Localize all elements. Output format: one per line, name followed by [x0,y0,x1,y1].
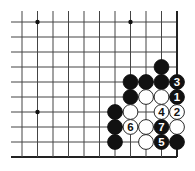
white-stone [139,120,154,135]
white-stone: 4 [154,105,169,120]
star-point [35,110,39,114]
move-number-label: 5 [158,136,165,148]
move-number-label: 4 [158,106,165,118]
stone-circle [108,105,123,120]
black-stone: 3 [170,75,185,90]
black-stone [108,105,123,120]
black-stone [123,90,138,105]
stone-circle [139,75,154,90]
white-stone [154,90,169,105]
stone-circle [123,90,138,105]
black-stone: 5 [154,135,169,150]
move-number-label: 3 [174,76,180,88]
stone-circle [108,135,123,150]
move-number-label: 6 [127,121,133,133]
white-stone [139,135,154,150]
move-number-label: 7 [158,121,164,133]
stone-circle [108,120,123,135]
black-stone [108,120,123,135]
stone-circle [139,90,154,105]
white-stone [139,90,154,105]
stone-circle [154,90,169,105]
black-stone: 7 [154,120,169,135]
stone-circle [170,135,185,150]
star-point [128,20,132,24]
black-stone [108,135,123,150]
white-stone [123,105,138,120]
black-stone [139,75,154,90]
go-board: 3142675 [0,0,195,171]
black-stone [154,60,169,75]
black-stone [154,75,169,90]
white-stone [170,120,185,135]
star-point [35,20,39,24]
black-stone: 1 [170,90,185,105]
black-stone [123,75,138,90]
stone-circle [154,75,169,90]
stone-circle [123,105,138,120]
stone-circle [139,135,154,150]
black-stone [170,135,185,150]
stone-circle [170,120,185,135]
stone-circle [139,120,154,135]
white-stone: 6 [123,120,138,135]
move-number-label: 2 [174,106,180,118]
stone-circle [123,75,138,90]
white-stone: 2 [170,105,185,120]
stone-circle [154,60,169,75]
move-number-label: 1 [174,91,181,103]
